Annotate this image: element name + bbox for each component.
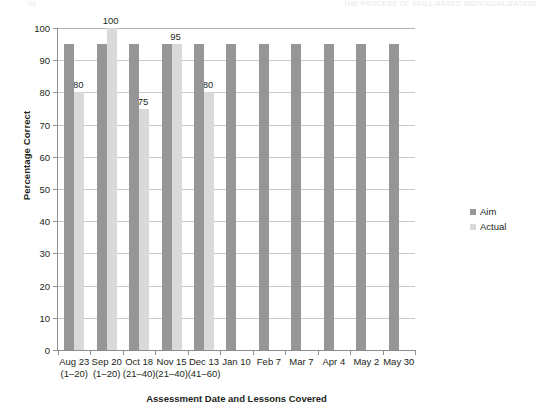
x-axis-tick-mark <box>155 350 156 355</box>
bar-group <box>123 28 155 350</box>
bar-aim[interactable] <box>259 44 269 350</box>
legend-label: Actual <box>480 221 506 232</box>
x-axis-title: Assessment Date and Lessons Covered <box>58 393 415 404</box>
plot-area: 80100759580 <box>58 28 415 350</box>
bar-group <box>90 28 122 350</box>
y-axis-tick-mark <box>53 157 58 158</box>
bar-aim[interactable] <box>129 44 139 350</box>
bar-aim[interactable] <box>162 44 172 350</box>
x-axis-tick-label: Dec 13(41–60) <box>188 356 221 379</box>
x-tick-lessons: (21–40) <box>155 368 188 380</box>
bar-actual[interactable] <box>74 92 84 350</box>
y-axis-tick-label: 40 <box>24 216 50 227</box>
x-axis-tick-label: May 2 <box>353 356 379 368</box>
x-tick-lessons: (1–20) <box>59 368 89 380</box>
x-tick-date: Mar 7 <box>289 356 313 367</box>
x-axis-tick-label: Nov 15(21–40) <box>155 356 188 379</box>
x-tick-date: Jan 10 <box>222 356 251 367</box>
x-tick-date: Nov 15 <box>157 356 187 367</box>
bar-aim[interactable] <box>194 44 204 350</box>
x-axis-tick-mark <box>123 350 124 355</box>
y-axis-tick-mark <box>53 189 58 190</box>
y-axis-tick-mark <box>53 253 58 254</box>
x-tick-lessons: (1–20) <box>92 368 122 380</box>
legend: AimActual <box>470 204 506 234</box>
bar-group <box>285 28 317 350</box>
y-axis-tick-label: 60 <box>24 151 50 162</box>
y-axis-tick-label: 80 <box>24 87 50 98</box>
x-axis-tick-mark <box>415 350 416 355</box>
x-axis-tick-labels: Aug 23(1–20)Sep 20(1–20)Oct 18(21–40)Nov… <box>58 350 415 390</box>
x-tick-date: May 2 <box>353 356 379 367</box>
x-axis-tick-label: Oct 18(21–40) <box>123 356 156 379</box>
x-tick-lessons: (21–40) <box>123 368 156 380</box>
x-tick-date: Dec 13 <box>189 356 219 367</box>
y-axis-tick-labels: 0102030405060708090100 <box>24 28 50 350</box>
bar-aim[interactable] <box>64 44 74 350</box>
x-axis-tick-mark <box>90 350 91 355</box>
legend-swatch-icon <box>470 224 476 230</box>
legend-label: Aim <box>480 206 496 217</box>
y-axis-tick-mark <box>53 60 58 61</box>
y-axis-tick-label: 0 <box>24 345 50 356</box>
x-axis-tick-label: May 30 <box>383 356 414 368</box>
bar-aim[interactable] <box>291 44 301 350</box>
y-axis-tick-label: 90 <box>24 55 50 66</box>
x-axis-tick-label: Sep 20(1–20) <box>92 356 122 379</box>
y-axis-tick-mark <box>53 221 58 222</box>
bar-group <box>58 28 90 350</box>
bar-group <box>155 28 187 350</box>
x-axis-tick-label: Mar 7 <box>289 356 313 368</box>
y-axis-tick-mark <box>53 125 58 126</box>
bar-chart-figure: Percentage Correct 010203040506070809010… <box>0 0 552 415</box>
x-axis-tick-label: Aug 23(1–20) <box>59 356 89 379</box>
y-axis-tick-label: 100 <box>24 23 50 34</box>
y-axis-tick-mark <box>53 318 58 319</box>
x-axis-tick-label: Apr 4 <box>323 356 346 368</box>
legend-swatch-icon <box>470 209 476 215</box>
bar-group <box>318 28 350 350</box>
bar-actual[interactable] <box>204 92 214 350</box>
bar-group <box>220 28 252 350</box>
y-axis-tick-label: 10 <box>24 312 50 323</box>
bar-aim[interactable] <box>389 44 399 350</box>
x-axis-tick-mark <box>188 350 189 355</box>
x-tick-date: Aug 23 <box>59 356 89 367</box>
x-axis-tick-mark <box>383 350 384 355</box>
bars-layer: 80100759580 <box>58 28 415 350</box>
bar-group <box>253 28 285 350</box>
bar-actual[interactable] <box>139 109 149 351</box>
y-axis-tick-label: 30 <box>24 248 50 259</box>
y-axis-tick-mark <box>53 286 58 287</box>
y-axis-tick-label: 70 <box>24 119 50 130</box>
bar-actual[interactable] <box>107 28 117 350</box>
y-axis-tick-mark <box>53 28 58 29</box>
bar-group <box>350 28 382 350</box>
x-tick-lessons: (41–60) <box>188 368 221 380</box>
bar-group <box>383 28 415 350</box>
bar-actual[interactable] <box>172 44 182 350</box>
x-tick-date: May 30 <box>383 356 414 367</box>
x-axis-tick-mark <box>350 350 351 355</box>
bar-aim[interactable] <box>226 44 236 350</box>
y-axis-tick-mark <box>53 92 58 93</box>
x-axis-tick-mark <box>285 350 286 355</box>
x-tick-date: Oct 18 <box>125 356 153 367</box>
x-axis-tick-mark <box>318 350 319 355</box>
x-axis-tick-label: Jan 10 <box>222 356 251 368</box>
legend-item[interactable]: Actual <box>470 219 506 234</box>
x-tick-date: Apr 4 <box>323 356 346 367</box>
bar-aim[interactable] <box>324 44 334 350</box>
x-axis-tick-mark <box>253 350 254 355</box>
x-axis-tick-mark <box>220 350 221 355</box>
legend-item[interactable]: Aim <box>470 204 506 219</box>
y-axis-tick-label: 50 <box>24 184 50 195</box>
bar-value-label: 100 <box>103 15 119 26</box>
x-tick-date: Sep 20 <box>92 356 122 367</box>
bar-group <box>188 28 220 350</box>
x-axis-tick-mark <box>58 350 59 355</box>
y-axis-tick-label: 20 <box>24 280 50 291</box>
x-axis-tick-label: Feb 7 <box>257 356 281 368</box>
bar-aim[interactable] <box>97 44 107 350</box>
bar-aim[interactable] <box>356 44 366 350</box>
